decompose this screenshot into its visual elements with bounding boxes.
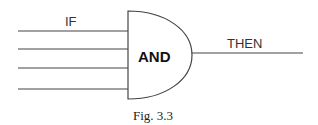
- input-label: IF: [65, 14, 77, 29]
- figure-caption: Fig. 3.3: [133, 108, 173, 123]
- and-gate-diagram: IF AND THEN Fig. 3.3: [0, 0, 318, 125]
- gate-label: AND: [138, 48, 171, 65]
- output-label: THEN: [227, 36, 262, 51]
